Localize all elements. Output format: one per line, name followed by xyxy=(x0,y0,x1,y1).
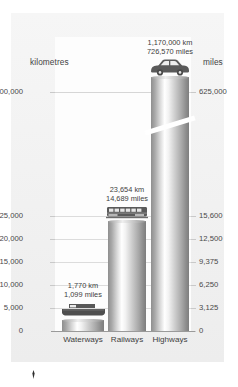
value-label-waterways-km: 1,770 km xyxy=(51,281,115,290)
right-tick-label-6250: 6,250 xyxy=(199,281,218,289)
tick-right-15600 xyxy=(191,216,196,217)
tick-left-15000 xyxy=(50,262,55,263)
tick-right-625000 xyxy=(191,92,196,93)
right-tick-label-9375: 9,375 xyxy=(199,258,218,266)
tick-right-3125 xyxy=(191,308,196,309)
value-label-railways-km: 23,654 km xyxy=(95,185,159,194)
left-tick-label-0: 0 xyxy=(19,327,23,335)
bar-railways-cap xyxy=(108,220,146,223)
tick-left-20000 xyxy=(50,239,55,240)
left-tick-label-15000: 15,000 xyxy=(0,258,23,266)
tick-right-6250 xyxy=(191,285,196,286)
right-tick-label-15600: 15,600 xyxy=(199,212,223,220)
tick-right-12500 xyxy=(191,239,196,240)
right-tick-label-625000: 625,000 xyxy=(199,88,227,96)
bar-highways[interactable] xyxy=(151,77,189,331)
ship-icon xyxy=(61,302,106,318)
car-icon xyxy=(149,58,191,76)
right-axis-title: miles xyxy=(203,57,223,67)
left-tick-label-25000: 25,000 xyxy=(0,212,23,220)
tick-left-5000 xyxy=(50,308,55,309)
left-axis-title: kilometres xyxy=(30,57,69,67)
value-label-highways-miles: 726,570 miles xyxy=(138,47,202,56)
value-label-waterways-miles: 1,099 miles xyxy=(51,290,115,299)
value-label-highways-km: 1,170,000 km xyxy=(138,38,202,47)
value-label-highways: 1,170,000 km 726,570 miles xyxy=(138,38,202,56)
left-tick-label-20000: 20,000 xyxy=(0,235,23,243)
tick-left-25000 xyxy=(50,216,55,217)
value-label-railways: 23,654 km 14,689 miles xyxy=(95,185,159,203)
value-label-waterways: 1,770 km 1,099 miles xyxy=(51,281,115,299)
tick-left-1000000 xyxy=(50,92,55,93)
bar-waterways-cap xyxy=(62,319,104,322)
tick-right-9375 xyxy=(191,262,196,263)
left-tick-label-10000: 10,000 xyxy=(0,281,23,289)
axis-baseline xyxy=(51,331,195,332)
right-tick-label-3125: 3,125 xyxy=(199,304,218,312)
chart-panel: kilometres miles 1,000,000 25,000 20,000… xyxy=(11,13,224,362)
category-label-highways: Highways xyxy=(139,335,201,344)
infographic-figure: kilometres miles 1,000,000 25,000 20,000… xyxy=(0,0,238,387)
footnote-marker-icon xyxy=(32,370,35,379)
right-tick-label-12500: 12,500 xyxy=(199,235,223,243)
bar-railways[interactable] xyxy=(108,221,146,331)
right-tick-label-0: 0 xyxy=(199,327,203,335)
left-tick-label-1000000: 1,000,000 xyxy=(0,88,23,96)
value-label-railways-miles: 14,689 miles xyxy=(95,194,159,203)
bar-waterways[interactable] xyxy=(62,320,104,331)
train-icon xyxy=(106,206,148,219)
left-tick-label-5000: 5,000 xyxy=(4,304,23,312)
